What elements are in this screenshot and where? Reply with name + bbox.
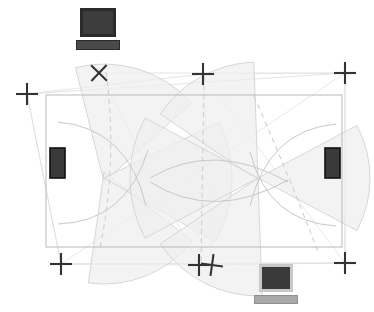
- computer-bottom-base: [254, 295, 298, 304]
- sensor-node-left[interactable]: [50, 148, 65, 178]
- sensor-nodes-layer: [0, 0, 374, 312]
- computer-top-screen: [80, 8, 116, 37]
- workstation-top-icon[interactable]: [76, 8, 120, 50]
- computer-bottom-screen: [259, 264, 293, 292]
- computer-top-base: [76, 40, 120, 50]
- diagram-canvas: [0, 0, 374, 312]
- workstation-bottom-icon[interactable]: [254, 264, 298, 304]
- sensor-node-right[interactable]: [325, 148, 340, 178]
